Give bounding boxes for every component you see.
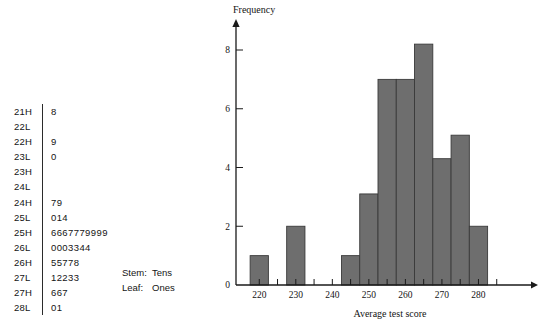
stem-leaf-row: 26L0003344 xyxy=(14,240,108,255)
stem-leaf-row: 25L014 xyxy=(14,210,108,225)
stem-leaf-row: 23L0 xyxy=(14,149,108,164)
y-tick-label: 8 xyxy=(225,45,230,55)
histogram-bar xyxy=(469,226,487,285)
stem-leaf-divider xyxy=(42,300,43,315)
x-tick-label: 220 xyxy=(252,290,267,300)
stem-leaf-divider xyxy=(42,225,43,240)
legend-row: Leaf:Ones xyxy=(122,280,175,295)
legend-value: Tens xyxy=(152,265,172,280)
histogram-bar xyxy=(396,79,414,285)
x-tick-label: 260 xyxy=(398,290,413,300)
stem-leaf-row: 23H xyxy=(14,164,108,179)
stem-value: 22H xyxy=(14,134,40,149)
leaf-values: 8 xyxy=(51,104,57,119)
y-axis-arrow xyxy=(232,19,239,27)
stem-value: 27L xyxy=(14,270,40,285)
stem-leaf-row: 26H55778 xyxy=(14,255,108,270)
plot-area: 22023024025026027028002468 xyxy=(225,19,538,300)
histogram-bar xyxy=(287,226,305,285)
y-tick-label: 4 xyxy=(225,163,230,173)
leaf-values: 9 xyxy=(51,134,57,149)
y-tick-label: 2 xyxy=(225,222,230,232)
stem-leaf-row: 27H667 xyxy=(14,285,108,300)
stem-value: 27H xyxy=(14,285,40,300)
histogram-chart: Frequency Average test score 22023024025… xyxy=(200,0,538,326)
stem-value: 28L xyxy=(14,300,40,315)
figure-root: 21H822L22H923L023H24L24H7925L01425H66677… xyxy=(0,0,538,326)
stem-leaf-row: 24H79 xyxy=(14,195,108,210)
legend-key: Stem: xyxy=(122,265,152,280)
x-axis-title: Average test score xyxy=(353,308,427,319)
histogram-bar xyxy=(451,135,469,285)
stem-value: 24H xyxy=(14,195,40,210)
stem-leaf-divider xyxy=(42,195,43,210)
stem-leaf-divider xyxy=(42,134,43,149)
leaf-values: 79 xyxy=(51,195,62,210)
x-tick-label: 270 xyxy=(435,290,450,300)
y-tick-label: 6 xyxy=(225,104,230,114)
stem-leaf-row: 22H9 xyxy=(14,134,108,149)
stem-leaf-legend: Stem:TensLeaf:Ones xyxy=(122,265,175,295)
stem-value: 24L xyxy=(14,179,40,194)
stem-value: 21H xyxy=(14,104,40,119)
stem-leaf-divider xyxy=(42,270,43,285)
stem-leaf-divider xyxy=(42,104,43,119)
leaf-values: 014 xyxy=(51,210,68,225)
leaf-values: 667 xyxy=(51,285,68,300)
stem-leaf-divider xyxy=(42,285,43,300)
leaf-values: 0003344 xyxy=(51,240,91,255)
stem-leaf-row: 25H6667779999 xyxy=(14,225,108,240)
stem-leaf-divider xyxy=(42,149,43,164)
stem-value: 23L xyxy=(14,149,40,164)
y-tick-label: 0 xyxy=(225,280,230,290)
histogram-bar xyxy=(360,194,378,285)
stem-leaf-divider xyxy=(42,179,43,194)
stem-leaf-row: 21H8 xyxy=(14,104,108,119)
x-tick-label: 280 xyxy=(471,290,486,300)
stem-leaf-divider xyxy=(42,240,43,255)
stem-value: 25L xyxy=(14,210,40,225)
x-tick-label: 250 xyxy=(362,290,377,300)
x-tick-label: 240 xyxy=(325,290,340,300)
stem-leaf-divider xyxy=(42,164,43,179)
stem-leaf-row: 28L01 xyxy=(14,300,108,315)
stem-value: 26H xyxy=(14,255,40,270)
histogram-bar xyxy=(415,44,433,285)
x-axis-arrow xyxy=(531,281,538,288)
stem-leaf-divider xyxy=(42,255,43,270)
stem-value: 23H xyxy=(14,164,40,179)
leaf-values: 0 xyxy=(51,149,57,164)
stem-value: 22L xyxy=(14,119,40,134)
histogram-bar xyxy=(433,159,451,285)
stem-leaf-divider xyxy=(42,210,43,225)
legend-key: Leaf: xyxy=(122,280,152,295)
x-tick-label: 230 xyxy=(289,290,304,300)
stem-leaf-row: 27L12233 xyxy=(14,270,108,285)
stem-and-leaf-plot: 21H822L22H923L023H24L24H7925L01425H66677… xyxy=(14,104,108,315)
stem-leaf-row: 24L xyxy=(14,179,108,194)
leaf-values: 55778 xyxy=(51,255,79,270)
legend-row: Stem:Tens xyxy=(122,265,175,280)
y-axis-title: Frequency xyxy=(233,4,275,15)
histogram-bar xyxy=(378,79,396,285)
stem-value: 25H xyxy=(14,225,40,240)
leaf-values: 6667779999 xyxy=(51,225,108,240)
legend-value: Ones xyxy=(152,280,175,295)
leaf-values: 12233 xyxy=(51,270,79,285)
leaf-values: 01 xyxy=(51,300,62,315)
stem-leaf-row: 22L xyxy=(14,119,108,134)
stem-leaf-divider xyxy=(42,119,43,134)
stem-value: 26L xyxy=(14,240,40,255)
